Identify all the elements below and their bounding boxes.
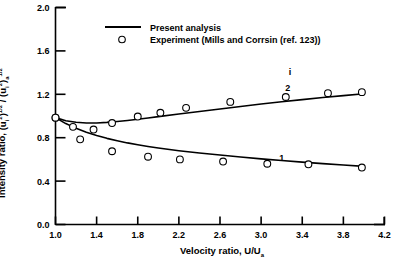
data-point-1-experiment-3 [145,153,152,160]
data-point-1-experiment-6 [264,160,271,167]
data-point-2-experiment-7 [227,99,234,106]
data-point-1-experiment-7 [305,161,312,168]
data-point-2-experiment-9 [325,90,332,97]
y-tick-label-5: 2.0 [37,3,50,13]
legend-label-present-analysis: Present analysis [150,23,221,33]
x-tick-label-5: 3.0 [255,230,268,240]
data-point-1-experiment-2 [109,148,116,155]
data-point-1-experiment-5 [220,158,227,165]
data-point-2-experiment-10 [358,89,365,96]
x-axis-title-subscript: a [261,252,265,258]
x-tick-label-7: 3.8 [337,230,350,240]
data-point-2-experiment-2 [90,126,97,133]
y-tick-label-group: 0.00.40.81.21.62.0 [37,3,50,230]
data-point-2-experiment-3 [109,120,116,127]
data-point-1-experiment-0 [52,114,59,121]
legend-circle-swatch [119,36,126,43]
data-point-2-experiment-6 [183,104,190,111]
curve-annotation-group: i21 [279,67,291,163]
x-tick-group [56,217,385,225]
curve-annotation-i: i [289,67,292,77]
y-tick-label-0: 0.0 [37,220,50,230]
legend: Present analysis Experiment (Mills and C… [105,23,321,46]
chart-canvas: 0.00.40.81.21.62.0 1.01.41.82.22.63.03.4… [0,0,401,266]
x-axis-title: Velocity ratio, U/Ua [180,245,265,258]
x-tick-label-2: 1.8 [131,230,144,240]
y-tick-label-3: 1.2 [37,90,50,100]
x-tick-label-6: 3.4 [296,230,309,240]
x-tick-label-8: 4.2 [378,230,391,240]
x-tick-label-0: 1.0 [49,230,62,240]
legend-label-experiment: Experiment (Mills and Corrsin (ref. 123)… [150,35,321,45]
data-point-2-experiment-4 [134,113,141,120]
curve-annotation-1: 1 [279,153,284,163]
curve-annotation-2: 2 [285,83,290,93]
curve-group [56,94,364,167]
figure-container: 0.00.40.81.21.62.0 1.01.41.82.22.63.03.4… [0,0,401,266]
y-tick-label-2: 0.8 [37,133,50,143]
x-axis-title-group: Velocity ratio, U/Ua [180,245,265,258]
x-tick-label-3: 2.2 [173,230,186,240]
x-tick-label-group: 1.01.41.82.22.63.03.43.84.2 [49,230,391,240]
data-point-1-experiment-8 [358,164,365,171]
curve-1 [56,118,364,167]
x-tick-label-4: 2.6 [214,230,227,240]
data-point-2-experiment-8 [282,94,289,101]
data-point-group [52,89,365,171]
data-point-2-experiment-1 [70,123,77,130]
y-tick-label-4: 1.6 [37,46,50,56]
x-axis-title-text: Velocity ratio, U/U [180,245,261,256]
curve-2 [56,94,364,123]
data-point-2-experiment-5 [157,109,164,116]
data-point-1-experiment-4 [177,156,184,163]
x-tick-label-1: 1.4 [90,230,103,240]
data-point-1-experiment-1 [77,136,84,143]
y-tick-label-1: 0.4 [37,177,50,187]
